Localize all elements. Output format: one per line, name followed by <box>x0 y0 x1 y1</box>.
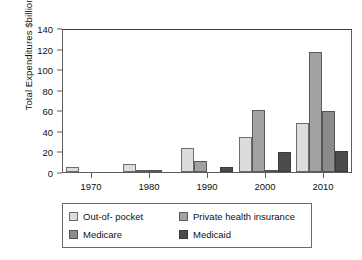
legend-item: Out-of- pocket <box>69 211 179 222</box>
bar <box>66 167 79 172</box>
bar <box>123 164 136 172</box>
bar-groups <box>63 30 351 172</box>
legend-label: Medicaid <box>193 229 231 240</box>
y-tick-label: 60 <box>42 106 53 117</box>
y-tick-label: 0 <box>48 168 53 179</box>
bar-group <box>63 30 121 172</box>
bar <box>265 170 278 172</box>
x-tick-mark <box>149 173 150 178</box>
legend-swatch-icon <box>69 212 78 221</box>
bar <box>322 111 335 172</box>
legend-item: Medicaid <box>179 229 305 240</box>
bar <box>335 151 348 172</box>
y-tick-label: 80 <box>42 85 53 96</box>
bar-group <box>236 30 294 172</box>
bar <box>220 167 233 172</box>
y-tick-label: 20 <box>42 147 53 158</box>
bar <box>252 110 265 172</box>
x-tick-mark <box>323 173 324 178</box>
x-tick-label: 1980 <box>120 181 178 192</box>
x-tick-label: 1990 <box>178 181 236 192</box>
legend-swatch-icon <box>69 230 78 239</box>
y-tick-label: 140 <box>37 24 53 35</box>
bar <box>278 152 291 172</box>
x-tick-mark <box>91 173 92 178</box>
bar <box>181 148 194 172</box>
y-tick-label: 40 <box>42 126 53 137</box>
x-axis-ticks: 19701980199020002010 <box>62 173 352 199</box>
legend-label: Private health insurance <box>193 211 295 222</box>
legend-label: Out-of- pocket <box>83 211 143 222</box>
y-tick-label: 100 <box>37 65 53 76</box>
y-axis-ticks: 020406080100120140 <box>0 29 62 173</box>
x-tick-label: 2010 <box>294 181 352 192</box>
x-tick-label: 2000 <box>236 181 294 192</box>
chart-figure: Total Expenditures $billions 02040608010… <box>0 0 362 260</box>
legend-swatch-icon <box>179 212 188 221</box>
bar <box>309 52 322 172</box>
bar <box>239 137 252 172</box>
bar <box>149 170 162 172</box>
plot-area <box>62 29 352 173</box>
bar-group <box>178 30 236 172</box>
y-tick-label: 120 <box>37 44 53 55</box>
legend-item: Medicare <box>69 229 179 240</box>
legend-item: Private health insurance <box>179 211 305 222</box>
legend-swatch-icon <box>179 230 188 239</box>
bar <box>136 170 149 172</box>
bar-group <box>293 30 351 172</box>
bar-group <box>121 30 179 172</box>
legend-label: Medicare <box>83 229 122 240</box>
bar <box>194 161 207 172</box>
x-tick-mark <box>207 173 208 178</box>
x-tick-label: 1970 <box>62 181 120 192</box>
bar <box>296 123 309 172</box>
x-tick-mark <box>265 173 266 178</box>
chart-legend: Out-of- pocketPrivate health insuranceMe… <box>62 203 312 248</box>
